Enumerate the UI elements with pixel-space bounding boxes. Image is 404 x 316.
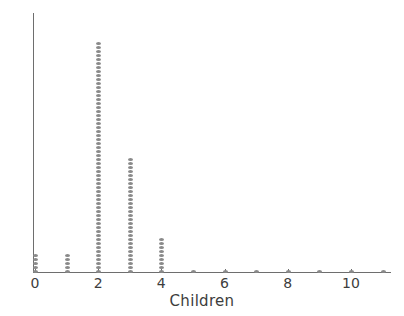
data-dot <box>128 230 133 233</box>
data-dot <box>96 242 101 245</box>
data-dot <box>96 166 101 169</box>
data-dot <box>96 138 101 141</box>
data-dot <box>96 94 101 97</box>
data-dot <box>33 254 38 257</box>
data-dot <box>96 250 101 253</box>
data-dot <box>128 206 133 209</box>
y-axis-line <box>33 13 34 273</box>
data-dot <box>96 198 101 201</box>
data-dot <box>96 254 101 257</box>
data-dot <box>96 106 101 109</box>
data-dot <box>128 198 133 201</box>
data-dot <box>128 186 133 189</box>
data-dot <box>33 262 38 265</box>
data-dot <box>96 174 101 177</box>
data-dot <box>128 218 133 221</box>
data-dot <box>96 62 101 65</box>
data-dot <box>128 234 133 237</box>
data-dot <box>128 238 133 241</box>
data-dot <box>96 46 101 49</box>
data-dot <box>96 122 101 125</box>
data-dot <box>159 254 164 257</box>
data-dot <box>128 270 133 273</box>
x-tick-label-2: 2 <box>83 275 113 291</box>
data-dot <box>96 114 101 117</box>
data-dot <box>128 246 133 249</box>
data-dot <box>96 82 101 85</box>
data-dot <box>381 270 386 273</box>
dot-plot-canvas: 0246810 Children <box>0 0 404 316</box>
data-dot <box>191 270 196 273</box>
data-dot <box>159 262 164 265</box>
data-dot <box>96 66 101 69</box>
data-dot <box>96 58 101 61</box>
data-dot <box>96 102 101 105</box>
data-dot <box>65 270 70 273</box>
data-dot <box>128 202 133 205</box>
data-dot <box>128 178 133 181</box>
data-dot <box>96 86 101 89</box>
data-dot <box>128 262 133 265</box>
data-dot <box>128 166 133 169</box>
data-dot <box>223 270 228 273</box>
data-dot <box>128 214 133 217</box>
data-dot <box>65 266 70 269</box>
data-dot <box>96 266 101 269</box>
data-dot <box>65 262 70 265</box>
data-dot <box>96 74 101 77</box>
data-dot <box>96 154 101 157</box>
data-dot <box>96 206 101 209</box>
data-dot <box>128 210 133 213</box>
data-dot <box>128 174 133 177</box>
data-dot <box>96 118 101 121</box>
x-tick-label-8: 8 <box>273 275 303 291</box>
x-axis-label: Children <box>0 292 404 310</box>
data-dot <box>96 50 101 53</box>
x-tick-label-4: 4 <box>146 275 176 291</box>
data-dot <box>96 238 101 241</box>
data-dot <box>96 218 101 221</box>
data-dot <box>128 162 133 165</box>
data-dot <box>96 78 101 81</box>
x-axis-line <box>33 272 391 273</box>
data-dot <box>159 258 164 261</box>
data-dot <box>96 150 101 153</box>
data-dot <box>96 126 101 129</box>
data-dot <box>96 178 101 181</box>
data-dot <box>96 170 101 173</box>
data-dot <box>96 70 101 73</box>
data-dot <box>159 246 164 249</box>
data-dot <box>96 146 101 149</box>
data-dot <box>96 210 101 213</box>
data-dot <box>96 162 101 165</box>
data-dot <box>96 226 101 229</box>
data-dot <box>128 254 133 257</box>
chart-figure: 0246810 Children <box>0 0 404 316</box>
data-dot <box>159 238 164 241</box>
data-dot <box>159 266 164 269</box>
data-dot <box>128 266 133 269</box>
data-dot <box>96 222 101 225</box>
data-dot <box>65 258 70 261</box>
data-dot <box>33 266 38 269</box>
data-dot <box>96 90 101 93</box>
data-dot <box>33 258 38 261</box>
data-dot <box>128 158 133 161</box>
data-dot <box>96 214 101 217</box>
data-dot <box>128 242 133 245</box>
data-dot <box>286 270 291 273</box>
data-dot <box>96 110 101 113</box>
data-dot <box>96 234 101 237</box>
data-dot <box>96 246 101 249</box>
data-dot <box>128 190 133 193</box>
data-dot <box>65 254 70 257</box>
data-dot <box>96 230 101 233</box>
data-dot <box>96 98 101 101</box>
data-dot <box>96 134 101 137</box>
data-dot <box>128 170 133 173</box>
data-dot <box>33 270 38 273</box>
data-dot <box>96 262 101 265</box>
data-dot <box>96 190 101 193</box>
data-dot <box>159 242 164 245</box>
data-dot <box>96 142 101 145</box>
